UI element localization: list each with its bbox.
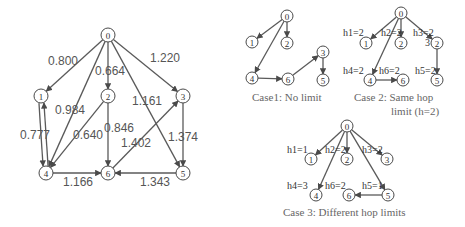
edge-weight-0-1: 0.800 <box>48 54 78 68</box>
case2-node-0-label: 0 <box>399 9 404 19</box>
case1-node-2: 2 <box>281 37 293 49</box>
case2-node-5-label: 5 <box>435 76 440 86</box>
edge-weight-2-4: 0.640 <box>73 128 103 142</box>
case2-hop-label: h2=2 <box>381 27 402 38</box>
case3-hop-label: h1=1 <box>287 144 308 155</box>
case3-node-6-label: 6 <box>347 191 352 201</box>
case3-node-3-label: 3 <box>385 155 390 165</box>
case1-node-5: 5 <box>317 74 329 86</box>
case3-node-4: 4 <box>310 189 322 201</box>
edge-weight-3-5: 1.374 <box>168 130 198 144</box>
case3-hop-label: h2=2 <box>325 144 346 155</box>
case1-node-6-label: 6 <box>286 75 291 85</box>
edge-weight-5-6: 1.343 <box>140 175 170 189</box>
case3-hop-label: h6=2 <box>325 180 346 191</box>
main-graph: 0.8000.6641.2200.9841.1610.7770.6400.846… <box>20 28 198 189</box>
case1-node-0: 0 <box>281 10 293 22</box>
case3-hop-label: h4=3 <box>287 180 308 191</box>
case2-node-1: 1 <box>360 37 372 49</box>
case2-hop-label: h6=2 <box>379 65 400 76</box>
case3-hop-label: h3=2 <box>362 144 383 155</box>
case2-side-label: 3 <box>425 37 430 48</box>
case2-hop-label: h1=2 <box>343 27 364 38</box>
case2-caption-line2: limit (h=2) <box>391 105 439 118</box>
node-3-label: 3 <box>181 92 186 102</box>
case1-caption: Case1: No limit <box>252 91 322 103</box>
case2-graph: 01224653h1=2h2=2h3=2h4=2h6=2h5=2Case 2: … <box>343 7 443 118</box>
node-4: 4 <box>39 166 53 180</box>
case1-edge-6-3 <box>293 56 318 76</box>
case2-node-2: 2 <box>395 37 407 49</box>
case3-hop-label: h5=1 <box>362 180 383 191</box>
node-2-label: 2 <box>106 92 111 102</box>
case3-node-2-label: 2 <box>345 155 350 165</box>
case2-node-3-label: 2 <box>435 39 440 49</box>
case2-node-2-label: 2 <box>399 39 404 49</box>
edge-weight-0-3: 1.220 <box>150 51 180 65</box>
case1-node-3: 3 <box>317 46 329 58</box>
node-1: 1 <box>34 89 48 103</box>
edge-weight-0-4: 0.984 <box>55 103 85 117</box>
case2-caption-line1: Case 2: Same hop <box>354 91 434 103</box>
diagram-canvas: 0.8000.6641.2200.9841.1610.7770.6400.846… <box>0 0 465 227</box>
node-4-label: 4 <box>44 169 49 179</box>
edge-weight-6-3: 1.402 <box>121 136 151 150</box>
case2-node-3: 2 <box>431 37 443 49</box>
case3-node-0-label: 0 <box>345 122 350 132</box>
edge-weight-0-5: 1.161 <box>132 94 162 108</box>
case3-node-4-label: 4 <box>314 191 319 201</box>
edge-weight-0-2: 0.664 <box>95 64 125 78</box>
node-0: 0 <box>101 28 115 42</box>
case2-node-1-label: 1 <box>364 39 369 49</box>
case1-node-5-label: 5 <box>321 76 326 86</box>
case3-node-5-label: 5 <box>386 191 391 201</box>
case1-edge-4-6 <box>258 78 282 79</box>
node-3: 3 <box>176 89 190 103</box>
node-5-label: 5 <box>181 169 186 179</box>
case2-node-4-label: 4 <box>368 76 373 86</box>
case2-node-6-label: 6 <box>401 76 406 86</box>
case1-node-1-label: 1 <box>250 38 255 48</box>
case1-edge-0-1 <box>257 20 282 39</box>
case1-node-4-label: 4 <box>250 74 255 84</box>
case2-hop-label: h4=2 <box>343 65 364 76</box>
case3-node-5: 5 <box>382 189 394 201</box>
node-1-label: 1 <box>39 92 44 102</box>
case3-graph: 0123465h1=1h2=2h3=2h4=3h6=2h5=1Case 3: D… <box>283 120 406 218</box>
case1-node-6: 6 <box>282 73 294 85</box>
case1-node-0-label: 0 <box>285 12 290 22</box>
edge-weight-4-6: 1.166 <box>63 175 93 189</box>
edge-weight-2-6: 0.846 <box>104 121 134 135</box>
case2-hop-label: h5=2 <box>415 65 436 76</box>
case2-node-4: 4 <box>364 74 376 86</box>
case3-node-1-label: 1 <box>309 155 314 165</box>
node-2: 2 <box>101 89 115 103</box>
case1-node-2-label: 2 <box>285 39 290 49</box>
case2-hop-label: h3=2 <box>413 27 434 38</box>
node-6-label: 6 <box>106 169 111 179</box>
case2-node-0: 0 <box>395 7 407 19</box>
node-6: 6 <box>101 166 115 180</box>
case1-node-4: 4 <box>246 72 258 84</box>
node-0-label: 0 <box>106 31 111 41</box>
case1-node-3-label: 3 <box>321 48 326 58</box>
case1-graph: 0123456Case1: No limit <box>246 10 329 103</box>
case1-node-1: 1 <box>246 36 258 48</box>
node-5: 5 <box>176 166 190 180</box>
case3-node-3: 3 <box>381 153 393 165</box>
case3-caption: Case 3: Different hop limits <box>283 206 406 218</box>
case3-node-0: 0 <box>341 120 353 132</box>
